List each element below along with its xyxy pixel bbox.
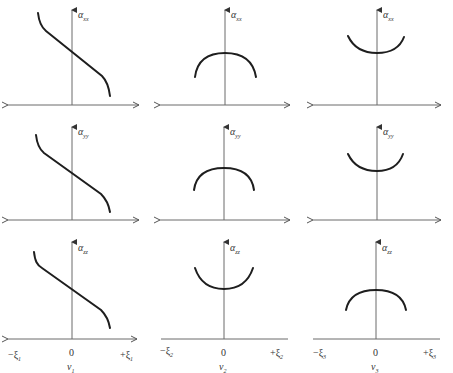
x-axis-max-label: +ξ2 <box>270 347 283 360</box>
variable-label: ν3 <box>371 361 378 373</box>
y-axis-label: αyy <box>383 126 394 139</box>
curve-decreasing-s <box>36 135 110 212</box>
y-axis-label: αzz <box>382 242 393 255</box>
x-axis-max-label: +ξ1 <box>120 349 133 362</box>
origin-label: 0 <box>69 347 74 358</box>
panel-row2-col2: αyy <box>160 126 290 220</box>
x-axis-max-label: +ξ3 <box>423 347 436 360</box>
variable-label: ν2 <box>219 361 226 373</box>
x-axis-min-label: −ξ3 <box>313 347 326 360</box>
y-axis-label: αxx <box>78 9 89 22</box>
panel-row1-col2: αxx <box>160 9 290 105</box>
x-axis-min-label: −ξ2 <box>160 345 173 358</box>
curve-decreasing-s <box>38 13 110 96</box>
panel-row2-col3: αyy <box>313 126 441 220</box>
y-axis-label: αxx <box>231 9 242 22</box>
x-axis-min-label: −ξ1 <box>8 349 21 362</box>
panel-row3-col2: αzz −ξ2 0 +ξ2 ν2 <box>160 242 288 373</box>
y-axis-label: αyy <box>78 126 89 139</box>
panel-row2-col1: αyy <box>8 126 139 220</box>
origin-label: 0 <box>373 347 378 358</box>
panel-row1-col1: αxx <box>8 9 139 105</box>
variable-label: ν1 <box>67 361 74 373</box>
curve-bowl-up <box>348 36 404 53</box>
origin-label: 0 <box>221 347 226 358</box>
curve-bowl-up <box>348 154 403 171</box>
y-axis-label: αzz <box>78 242 89 255</box>
polarizability-diagram: αxx αxx αxx αyy αyy αyy αzz −ξ1 0 <box>0 0 453 373</box>
y-axis-label: αyy <box>230 126 241 139</box>
y-axis-label: αzz <box>230 242 241 255</box>
panel-row3-col3: αzz −ξ3 0 +ξ3 ν3 <box>313 242 440 373</box>
panel-row3-col1: αzz −ξ1 0 +ξ1 ν1 <box>8 242 137 373</box>
panel-row1-col3: αxx <box>313 9 441 105</box>
y-axis-label: αxx <box>383 9 394 22</box>
